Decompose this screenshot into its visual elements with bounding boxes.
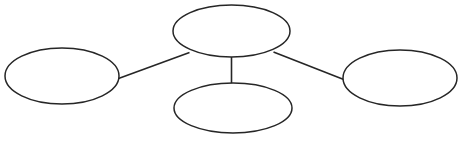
- node-bottom[interactable]: [174, 83, 292, 133]
- diagram-canvas: [0, 0, 459, 143]
- node-center-top-ellipse[interactable]: [173, 5, 290, 57]
- node-right-ellipse[interactable]: [343, 50, 457, 106]
- node-left[interactable]: [5, 48, 119, 104]
- node-right[interactable]: [343, 50, 457, 106]
- connector-center-to-left[interactable]: [119, 53, 190, 79]
- node-bottom-ellipse[interactable]: [174, 83, 292, 133]
- node-center-top[interactable]: [173, 5, 290, 57]
- node-left-ellipse[interactable]: [5, 48, 119, 104]
- connector-center-to-right[interactable]: [274, 52, 346, 80]
- concept-map-svg: [0, 0, 459, 143]
